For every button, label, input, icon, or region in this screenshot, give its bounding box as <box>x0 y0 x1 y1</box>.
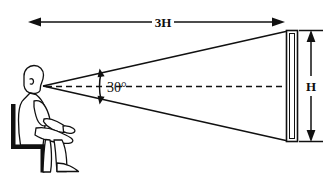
diagram-canvas: 3H 30° <box>0 0 331 174</box>
foot <box>57 163 79 172</box>
sight-line-lower <box>43 86 288 141</box>
height-arrowhead-bottom <box>307 130 316 142</box>
head <box>24 66 44 94</box>
viewing-geometry-diagram: 3H 30° <box>0 0 331 174</box>
distance-dimension-arrow: 3H <box>28 15 285 30</box>
height-arrowhead-top <box>307 30 316 42</box>
angle-label: 30° <box>107 80 127 95</box>
distance-label: 3H <box>155 15 172 30</box>
sight-line-upper <box>43 31 288 86</box>
distance-arrowhead-left <box>28 18 41 27</box>
screen-inner-face <box>290 34 295 139</box>
screen-height-label: H <box>306 79 316 94</box>
seated-viewer <box>19 66 79 173</box>
lower-leg-back <box>43 140 52 173</box>
height-dimension-arrow: H <box>299 30 323 142</box>
hand <box>63 126 75 133</box>
chair-back <box>11 104 16 149</box>
screen-panel <box>287 31 298 142</box>
distance-arrowhead-right <box>272 18 285 27</box>
